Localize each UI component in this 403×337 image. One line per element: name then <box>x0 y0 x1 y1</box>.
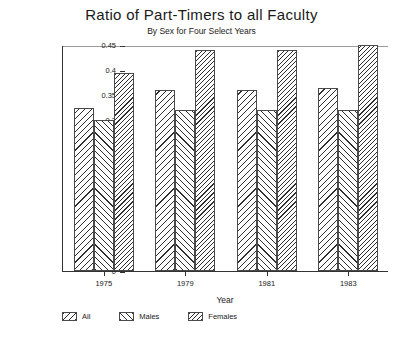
chart-subtitle: By Sex for Four Select Years <box>0 26 403 36</box>
chart-container: Ratio of Part-Timers to all Faculty By S… <box>0 0 403 337</box>
bar-females-1983 <box>358 45 378 271</box>
bar-males-1975 <box>94 120 114 271</box>
x-axis-tick-mark <box>267 271 268 276</box>
x-axis-tick-mark <box>348 271 349 276</box>
bar-all-1979 <box>155 90 175 271</box>
x-axis-title: Year <box>62 295 388 305</box>
legend-entry-all: All <box>62 312 90 321</box>
x-axis-tick-label: 1983 <box>340 279 357 288</box>
bar-females-1979 <box>195 50 215 271</box>
plot-area: Ratio of Part-Time to Total 00.050.10.15… <box>62 46 388 272</box>
bar-group: 1983 <box>308 45 390 271</box>
bar-females-1975 <box>114 73 134 271</box>
legend-label-males: Males <box>139 312 159 321</box>
bar-group: 1979 <box>145 45 227 271</box>
bar-males-1983 <box>338 110 358 271</box>
legend-swatch-females <box>188 312 203 321</box>
legend-swatch-all <box>62 312 77 321</box>
bar-males-1979 <box>175 110 195 271</box>
x-axis-tick-label: 1979 <box>177 279 194 288</box>
bar-females-1981 <box>277 50 297 271</box>
x-axis-tick-mark <box>104 271 105 276</box>
legend-label-females: Females <box>208 312 237 321</box>
bar-all-1975 <box>74 108 94 271</box>
bar-all-1983 <box>318 88 338 271</box>
bar-males-1981 <box>257 110 277 271</box>
x-axis-tick-mark <box>185 271 186 276</box>
bar-group: 1981 <box>226 45 308 271</box>
y-axis-tick-mark <box>120 272 125 273</box>
bar-group: 1975 <box>63 45 145 271</box>
legend-entry-males: Males <box>119 312 159 321</box>
x-axis-tick-label: 1975 <box>95 279 112 288</box>
chart-legend: AllMalesFemales <box>62 312 259 321</box>
legend-entry-females: Females <box>188 312 237 321</box>
bar-all-1981 <box>237 90 257 271</box>
legend-swatch-males <box>119 312 134 321</box>
chart-title: Ratio of Part-Timers to all Faculty <box>0 6 403 23</box>
legend-label-all: All <box>82 312 90 321</box>
x-axis-tick-label: 1981 <box>258 279 275 288</box>
